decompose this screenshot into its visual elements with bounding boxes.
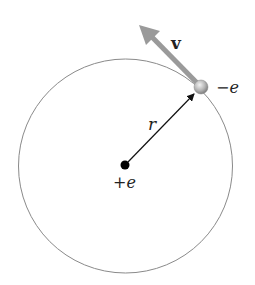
bohr-atom-diagram: v −e r +e (0, 0, 255, 285)
velocity-arrow (139, 25, 200, 86)
velocity-label: v (170, 33, 182, 53)
diagram-svg: v −e r +e (0, 0, 255, 285)
radius-arrow (128, 94, 194, 162)
electron-sphere (194, 80, 208, 94)
radius-label: r (148, 114, 157, 134)
electron-charge-label: −e (216, 78, 239, 97)
nucleus-charge-label: +e (113, 173, 136, 192)
nucleus-dot (121, 161, 130, 170)
